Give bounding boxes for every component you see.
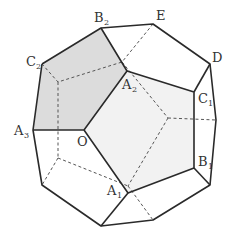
svg-text:2: 2 (36, 62, 41, 71)
svg-text:1: 1 (117, 191, 122, 200)
svg-text:C: C (198, 91, 208, 106)
svg-text:B: B (94, 10, 104, 25)
label-e: E (156, 8, 166, 23)
svg-text:A: A (13, 123, 24, 138)
label-d: D (212, 50, 222, 65)
label-c1: C 1 (198, 91, 213, 108)
svg-text:2: 2 (132, 85, 137, 94)
label-a1: A 1 (106, 183, 122, 200)
label-o: O (77, 134, 88, 149)
svg-text:1: 1 (208, 99, 213, 108)
label-c2: C 2 (26, 54, 41, 71)
svg-text:O: O (77, 134, 88, 149)
label-b1: B 1 (198, 154, 213, 171)
svg-text:1: 1 (208, 162, 213, 171)
svg-text:3: 3 (24, 131, 29, 140)
svg-text:2: 2 (104, 18, 109, 27)
svg-text:D: D (212, 50, 222, 65)
svg-text:A: A (106, 183, 117, 198)
svg-text:E: E (156, 8, 166, 23)
label-b2: B 2 (94, 10, 109, 27)
label-a3: A 3 (13, 123, 29, 140)
svg-text:A: A (121, 77, 132, 92)
svg-text:B: B (198, 154, 208, 169)
dodecahedron-diagram: B 2 E C 2 D A 2 C 1 A 3 O B 1 A 1 (0, 0, 236, 239)
svg-text:C: C (26, 54, 36, 69)
